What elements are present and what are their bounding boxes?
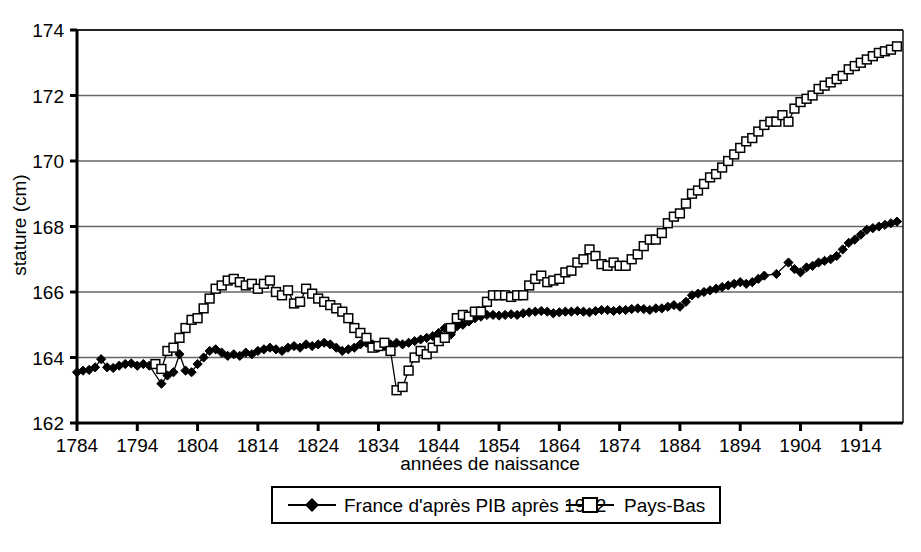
- stature-line-chart: 162164166168170172174 178417941804181418…: [0, 0, 921, 552]
- data-point-marker: [205, 294, 214, 303]
- data-point-marker: [784, 117, 793, 126]
- data-point-marker: [284, 286, 293, 295]
- legend-label-paysbas: Pays-Bas: [624, 495, 705, 516]
- data-point-marker: [446, 324, 455, 333]
- x-tick-label: 1784: [56, 435, 99, 456]
- y-tick-label: 174: [32, 20, 64, 41]
- data-point-marker: [296, 297, 305, 306]
- chart-legend: France d'après PIB après 1902 Pays-Bas: [272, 487, 720, 523]
- data-point-marker: [175, 333, 184, 342]
- x-tick-label: 1804: [176, 435, 219, 456]
- data-point-marker: [266, 276, 275, 285]
- data-point-marker: [398, 383, 407, 392]
- data-point-marker: [676, 209, 685, 218]
- data-point-marker: [362, 333, 371, 342]
- data-point-marker: [657, 229, 666, 238]
- x-tick-label: 1834: [357, 435, 400, 456]
- data-point-marker: [157, 365, 166, 374]
- data-point-marker: [344, 314, 353, 323]
- legend-item-paysbas: Pays-Bas: [566, 495, 705, 516]
- x-tick-label: 1874: [598, 435, 641, 456]
- data-point-marker: [477, 307, 486, 316]
- data-point-marker: [169, 343, 178, 352]
- data-point-marker: [519, 291, 528, 300]
- chart-container: 162164166168170172174 178417941804181418…: [0, 0, 921, 552]
- x-tick-label: 1904: [779, 435, 822, 456]
- x-tick-label: 1894: [719, 435, 762, 456]
- y-tick-label: 162: [32, 413, 64, 434]
- data-point-marker: [893, 42, 902, 51]
- open-square-icon: [583, 498, 597, 512]
- y-tick-label: 172: [32, 86, 64, 107]
- x-tick-label: 1914: [840, 435, 883, 456]
- data-point-marker: [682, 199, 691, 208]
- x-tick-label: 1794: [116, 435, 159, 456]
- x-tick-label: 1884: [659, 435, 702, 456]
- y-tick-label: 168: [32, 217, 64, 238]
- data-point-marker: [386, 347, 395, 356]
- x-tick-label: 1824: [297, 435, 340, 456]
- data-point-marker: [579, 255, 588, 264]
- y-tick-label: 170: [32, 151, 64, 172]
- x-axis-title: années de naissance: [400, 453, 580, 474]
- data-point-marker: [440, 333, 449, 342]
- x-tick-label: 1814: [237, 435, 280, 456]
- y-tick-label: 166: [32, 282, 64, 303]
- data-point-marker: [193, 314, 202, 323]
- data-point-marker: [404, 366, 413, 375]
- data-point-marker: [199, 304, 208, 313]
- y-tick-label: 164: [32, 348, 64, 369]
- y-axis-title: stature (cm): [9, 174, 30, 275]
